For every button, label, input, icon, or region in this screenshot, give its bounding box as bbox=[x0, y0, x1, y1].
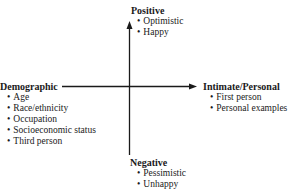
list-item: Pessimistic bbox=[137, 168, 186, 179]
positive-list: Optimistic Happy bbox=[131, 16, 183, 38]
right-arrow-icon bbox=[189, 84, 197, 90]
demographic-list: Age Race/ethnicity Occupation Socioecono… bbox=[0, 92, 96, 147]
list-item: Optimistic bbox=[137, 16, 183, 27]
negative-block: Negative Pessimistic Unhappy bbox=[130, 157, 186, 190]
intimate-list: First person Personal examples bbox=[203, 92, 287, 114]
list-item: Age bbox=[7, 92, 96, 103]
list-item: Third person bbox=[7, 136, 96, 147]
intimate-block: Intimate/Personal First person Personal … bbox=[203, 81, 287, 114]
demographic-title: Demographic bbox=[0, 81, 96, 92]
negative-list: Pessimistic Unhappy bbox=[130, 168, 186, 190]
positive-block: Positive Optimistic Happy bbox=[131, 5, 183, 38]
intimate-title: Intimate/Personal bbox=[203, 81, 287, 92]
list-item: Occupation bbox=[7, 114, 96, 125]
list-item: Personal examples bbox=[210, 103, 287, 114]
negative-title: Negative bbox=[130, 157, 186, 168]
list-item: Socioeconomic status bbox=[7, 125, 96, 136]
list-item: First person bbox=[210, 92, 287, 103]
list-item: Happy bbox=[137, 27, 183, 38]
demographic-block: Demographic Age Race/ethnicity Occupatio… bbox=[0, 81, 96, 147]
list-item: Race/ethnicity bbox=[7, 103, 96, 114]
positive-title: Positive bbox=[131, 5, 183, 16]
list-item: Unhappy bbox=[137, 179, 186, 190]
